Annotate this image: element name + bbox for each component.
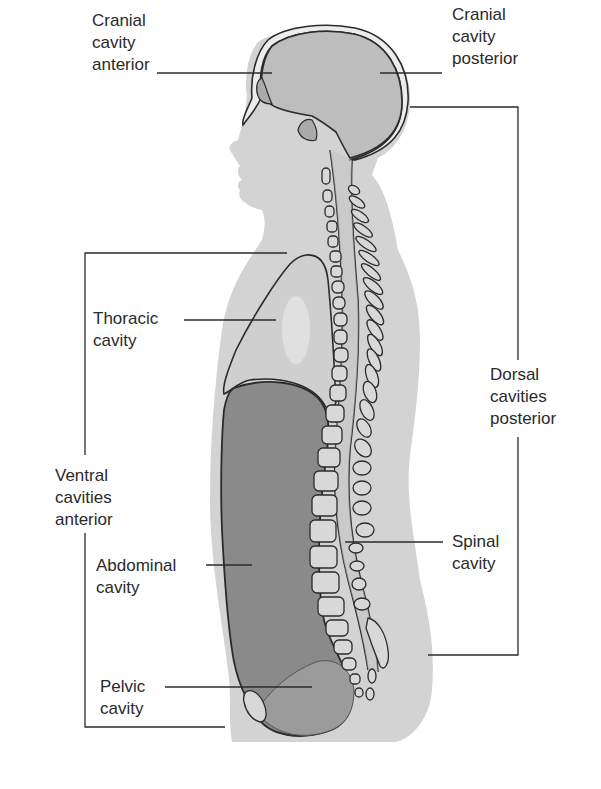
body-cavities-figure: Cranial cavity anterior Cranial cavity p… <box>0 0 601 789</box>
label-cranial-cavity-anterior: Cranial cavity anterior <box>92 10 150 76</box>
label-pelvic-cavity: Pelvic cavity <box>100 676 145 720</box>
label-spinal-cavity: Spinal cavity <box>452 531 499 575</box>
thoracic-highlight <box>282 296 310 364</box>
label-cranial-cavity-posterior: Cranial cavity posterior <box>452 4 518 70</box>
label-abdominal-cavity: Abdominal cavity <box>96 555 176 599</box>
label-ventral-cavities: Ventral cavities anterior <box>55 465 113 531</box>
label-dorsal-cavities: Dorsal cavities posterior <box>490 364 556 430</box>
label-thoracic-cavity: Thoracic cavity <box>93 308 158 352</box>
